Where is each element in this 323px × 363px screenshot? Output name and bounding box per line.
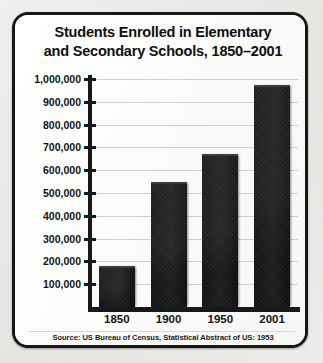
y-axis-tick: [84, 101, 96, 104]
y-axis-tick-label: 500,000: [15, 187, 81, 199]
source-note: Source: US Bureau of Census, Statistical…: [23, 333, 303, 342]
y-axis-tick: [84, 215, 96, 218]
y-axis-tick: [84, 78, 96, 81]
chart-panel: Students Enrolled in Elementary and Seco…: [15, 15, 305, 345]
y-axis-tick-label: 800,000: [15, 119, 81, 131]
plot-area: [91, 79, 298, 307]
bar-1850: [99, 266, 135, 307]
y-axis-tick: [84, 146, 96, 149]
y-axis-tick-label: 600,000: [15, 164, 81, 176]
y-axis-tick-label: 200,000: [15, 255, 81, 267]
y-axis-tick-label: 300,000: [15, 233, 81, 245]
y-axis-tick: [84, 260, 96, 263]
bar-2001: [254, 85, 290, 307]
chart-card: Students Enrolled in Elementary and Seco…: [12, 12, 308, 348]
x-axis-tick-label: 2001: [242, 313, 302, 325]
x-axis-line: [88, 307, 300, 312]
y-axis-tick: [84, 124, 96, 127]
y-axis-tick-label: 700,000: [15, 141, 81, 153]
y-axis-tick-label: 1,000,000: [15, 73, 81, 85]
y-axis-tick-label: 400,000: [15, 210, 81, 222]
y-axis-tick-label: 100,000: [15, 278, 81, 290]
gridline: [91, 79, 298, 80]
y-axis-tick: [84, 238, 96, 241]
y-axis-tick-label: 900,000: [15, 96, 81, 108]
y-axis-tick: [84, 169, 96, 172]
bar-1900: [151, 182, 187, 307]
y-axis-tick: [84, 283, 96, 286]
y-axis-labels: 100,000200,000300,000400,000500,000600,0…: [15, 15, 81, 348]
bar-1950: [202, 154, 238, 307]
source-divider: [29, 331, 295, 332]
y-axis-tick: [84, 192, 96, 195]
